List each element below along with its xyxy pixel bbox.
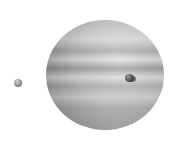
moon-left bbox=[14, 79, 22, 87]
planet bbox=[46, 20, 164, 130]
moon-transit bbox=[125, 74, 134, 82]
space-scene bbox=[0, 0, 182, 148]
